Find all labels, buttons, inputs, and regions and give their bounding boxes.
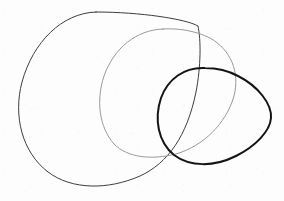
overlapping-ovals-figure [0, 0, 284, 201]
figure-canvas [0, 0, 284, 201]
figure-background [0, 0, 284, 201]
